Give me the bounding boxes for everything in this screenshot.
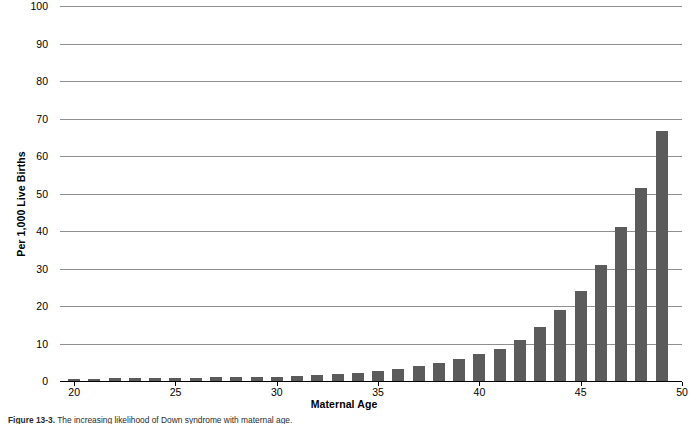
bar-age-44 bbox=[554, 310, 566, 381]
x-tick-label: 40 bbox=[459, 387, 499, 398]
plot-area: 0102030405060708090100 bbox=[60, 6, 682, 381]
bar-age-23 bbox=[129, 378, 141, 381]
x-tick-label: 30 bbox=[257, 387, 297, 398]
x-tick-label: 20 bbox=[54, 387, 94, 398]
x-tick-label: 35 bbox=[358, 387, 398, 398]
bar-age-47 bbox=[615, 227, 627, 381]
bar-age-32 bbox=[311, 375, 323, 381]
x-tick-label: 50 bbox=[662, 387, 693, 398]
y-tick-label: 40 bbox=[8, 226, 48, 237]
bar-age-33 bbox=[332, 374, 344, 381]
bar-series bbox=[60, 6, 682, 381]
bar-age-41 bbox=[494, 349, 506, 381]
y-tick-label: 30 bbox=[8, 263, 48, 274]
bar-age-49 bbox=[656, 131, 668, 382]
bar-age-28 bbox=[230, 377, 242, 381]
bar-age-37 bbox=[413, 366, 425, 381]
bar-age-21 bbox=[88, 379, 100, 381]
bar-age-43 bbox=[534, 327, 546, 381]
bar-age-46 bbox=[595, 265, 607, 381]
y-tick-label: 60 bbox=[8, 151, 48, 162]
bar-age-45 bbox=[575, 291, 587, 381]
bar-age-29 bbox=[251, 377, 263, 381]
figure-caption-text: The increasing likelihood of Down syndro… bbox=[57, 415, 292, 424]
bar-age-30 bbox=[271, 377, 283, 382]
figure-caption-label: Figure 13-3. bbox=[8, 415, 55, 424]
y-tick-label: 50 bbox=[8, 188, 48, 199]
bar-age-34 bbox=[352, 373, 364, 381]
y-tick-label: 70 bbox=[8, 113, 48, 124]
x-tick-label: 25 bbox=[155, 387, 195, 398]
bar-age-25 bbox=[169, 378, 181, 381]
bar-age-26 bbox=[190, 378, 202, 381]
figure-caption: Figure 13-3. The increasing likelihood o… bbox=[8, 415, 680, 424]
x-axis-title: Maternal Age bbox=[0, 398, 688, 410]
x-tick-label: 45 bbox=[561, 387, 601, 398]
y-tick-label: 100 bbox=[8, 1, 48, 12]
y-tick-label: 80 bbox=[8, 76, 48, 87]
bar-age-31 bbox=[291, 376, 303, 381]
y-tick-label: 0 bbox=[8, 376, 48, 387]
bar-age-42 bbox=[514, 340, 526, 381]
y-tick-label: 90 bbox=[8, 38, 48, 49]
bar-age-35 bbox=[372, 371, 384, 381]
y-tick-label: 10 bbox=[8, 338, 48, 349]
bar-age-24 bbox=[149, 378, 161, 381]
bar-age-22 bbox=[109, 378, 121, 381]
bar-age-38 bbox=[433, 363, 445, 381]
bar-age-40 bbox=[473, 354, 485, 381]
bar-age-39 bbox=[453, 359, 465, 381]
bar-age-48 bbox=[635, 188, 647, 381]
bar-age-36 bbox=[392, 369, 404, 381]
bar-age-27 bbox=[210, 377, 222, 381]
bar-age-20 bbox=[68, 379, 80, 381]
y-tick-label: 20 bbox=[8, 301, 48, 312]
